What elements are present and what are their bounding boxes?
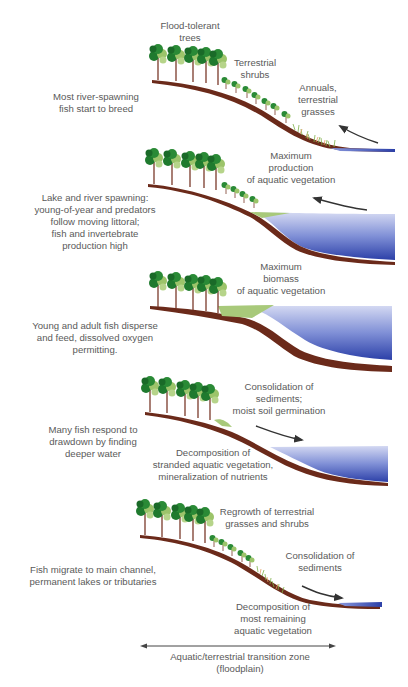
label-consolidation-sediments: Consolidation of sediments: [280, 550, 360, 574]
tree-icon: [145, 148, 225, 190]
rising-water-arrow: [314, 198, 367, 210]
label-flood-tolerant-trees: Flood-tolerant trees: [150, 20, 230, 44]
label-consolidation-germination: Consolidation of sediments; moist soil g…: [224, 381, 334, 417]
falling-water-arrow: [302, 586, 342, 598]
rising-water-arrow: [340, 126, 378, 143]
label-decomposition-stranded: Decomposition of stranded aquatic vegeta…: [143, 447, 283, 483]
falling-water-arrow: [256, 426, 302, 440]
label-fish-drawdown: Many fish respond to drawdown by finding…: [40, 424, 146, 460]
transition-zone-axis: [140, 644, 336, 649]
tree-icon: [149, 44, 227, 85]
label-lake-river-spawning: Lake and river spawning: young-of-year a…: [20, 192, 170, 252]
label-fish-migrate: Fish migrate to main channel, permanent …: [20, 564, 166, 588]
label-max-biomass: Maximum biomass of aquatic vegetation: [226, 261, 336, 297]
label-fish-disperse: Young and adult fish disperse and feed, …: [22, 320, 168, 356]
label-max-production: Maximum production of aquatic vegetation: [236, 150, 346, 186]
label-fish-breed: Most river-spawning fish start to breed: [44, 91, 148, 115]
label-transition-zone: Aquatic/terrestrial transition zone (flo…: [150, 651, 330, 675]
label-terrestrial-shrubs: Terrestrial shrubs: [225, 57, 285, 81]
label-annuals-grasses: Annuals, terrestrial grasses: [288, 82, 348, 118]
label-decomposition-remaining: Decomposition of most remaining aquatic …: [228, 601, 318, 637]
label-regrowth: Regrowth of terrestrial grasses and shru…: [212, 506, 322, 530]
